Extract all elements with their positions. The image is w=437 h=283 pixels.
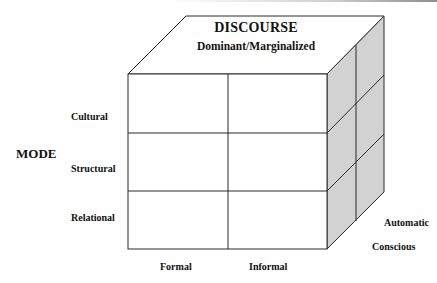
col-label-formal: Formal — [160, 262, 192, 272]
row-label-relational: Relational — [71, 213, 115, 223]
row-label-cultural: Cultural — [71, 112, 108, 122]
depth-label-conscious: Conscious — [372, 242, 415, 252]
discourse-title: DISCOURSE — [186, 21, 326, 35]
mode-axis-label: MODE — [16, 147, 56, 160]
depth-label-automatic: Automatic — [384, 218, 429, 228]
row-label-structural: Structural — [71, 164, 115, 174]
col-label-informal: Informal — [249, 262, 287, 272]
discourse-subtitle: Dominant/Marginalized — [176, 41, 336, 53]
